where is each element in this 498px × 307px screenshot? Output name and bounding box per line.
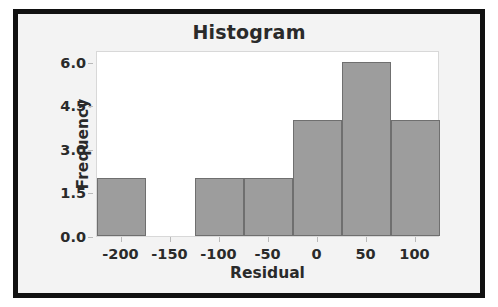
histogram-bar [391,120,440,236]
x-tick-mark [121,237,122,242]
histogram-bar [97,178,146,236]
histogram-bar [244,178,293,236]
x-tick-label: 100 [399,246,429,262]
figure-background: Histogram Frequency 0.01.53.04.56.0 -200… [18,14,480,293]
x-tick-label: -50 [254,246,280,262]
y-tick-mark [88,106,93,107]
chart-title: Histogram [18,21,480,43]
x-tick-label: 0 [311,246,321,262]
chart-frame: Histogram Frequency 0.01.53.04.56.0 -200… [13,9,485,298]
y-tick-label: 6.0 [60,55,86,71]
x-axis-label: Residual [96,264,439,282]
y-axis-ticks: 0.01.53.04.56.0 [18,51,96,237]
histogram-bars [97,52,438,236]
y-tick-mark [88,150,93,151]
histogram-bar [342,62,391,236]
histogram-bar [293,120,342,236]
y-tick-mark [88,193,93,194]
y-tick-label: 4.5 [60,98,86,114]
x-tick-label: -200 [102,246,138,262]
plot-area [96,51,439,237]
histogram-bar [195,178,244,236]
y-tick-label: 1.5 [60,185,86,201]
x-tick-mark [415,237,416,242]
y-tick-mark [88,237,93,238]
x-tick-mark [170,237,171,242]
y-tick-mark [88,63,93,64]
x-tick-label: -150 [151,246,187,262]
x-tick-mark [366,237,367,242]
y-tick-label: 3.0 [60,142,86,158]
x-tick-mark [268,237,269,242]
x-tick-label: -100 [200,246,236,262]
x-tick-mark [219,237,220,242]
x-tick-label: 50 [355,246,375,262]
x-tick-mark [317,237,318,242]
x-axis-ticks: -200-150-100-50050100 [96,237,439,263]
y-tick-label: 0.0 [60,229,86,245]
